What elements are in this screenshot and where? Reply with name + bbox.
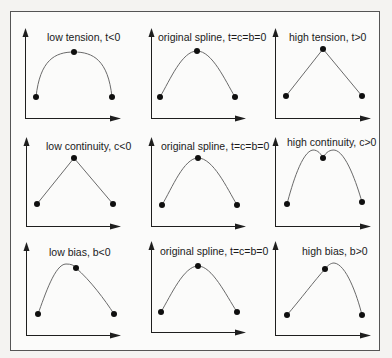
control-point [284, 312, 290, 318]
control-point [359, 312, 365, 318]
control-point [109, 94, 115, 100]
control-point [35, 311, 41, 317]
control-point [320, 155, 326, 161]
control-point [359, 93, 365, 99]
spline-parameter-figure: low tension, t<0original spline, t=c=b=0… [0, 0, 392, 358]
control-point [322, 266, 328, 272]
control-point [195, 263, 201, 269]
control-point [283, 93, 289, 99]
control-point [232, 94, 238, 100]
control-point [284, 201, 290, 207]
panel-label: original spline, t=c=b=0 [158, 31, 266, 43]
panel-label: high bias, b>0 [302, 245, 368, 257]
panel-label: original spline, t=c=b=0 [161, 140, 269, 152]
control-point [33, 94, 39, 100]
panel-label: high tension, t>0 [289, 31, 367, 43]
control-point [34, 201, 40, 207]
panel-label: low tension, t<0 [47, 31, 120, 43]
control-point [195, 155, 201, 161]
control-point [73, 265, 79, 271]
figure-frame [11, 12, 380, 351]
control-point [71, 49, 77, 55]
control-point [194, 48, 200, 54]
control-point [359, 199, 365, 205]
panel-label: high continuity, c>0 [287, 136, 377, 148]
panel-label: original spline, t=c=b=0 [160, 245, 268, 257]
control-point [320, 46, 326, 52]
control-point [110, 201, 116, 207]
control-point [234, 202, 240, 208]
control-point [234, 309, 240, 315]
panel-label: low bias, b<0 [49, 246, 111, 258]
figure: low tension, t<0original spline, t=c=b=0… [0, 0, 392, 358]
panel-label: low continuity, c<0 [46, 140, 131, 152]
control-point [158, 309, 164, 315]
control-point [157, 94, 163, 100]
control-point [111, 311, 117, 317]
control-point [71, 155, 77, 161]
control-point [159, 202, 165, 208]
